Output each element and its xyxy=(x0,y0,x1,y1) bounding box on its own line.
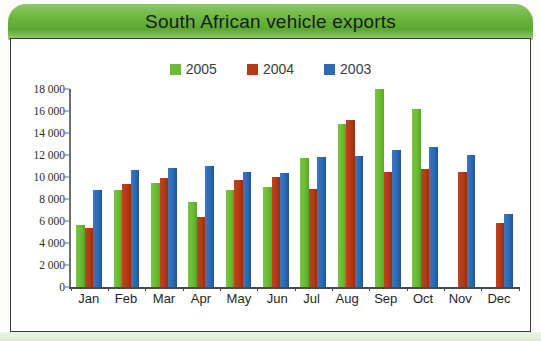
bar-cluster-Jul xyxy=(300,89,326,287)
x-tick-label-Aug: Aug xyxy=(335,291,358,306)
y-tick-label: 16 000 xyxy=(33,105,65,117)
bar-Jun-2003 xyxy=(280,173,289,287)
bar-May-2003 xyxy=(243,172,252,288)
legend-item-2005[interactable]: 2005 xyxy=(170,61,217,77)
y-tick-mark xyxy=(65,89,70,90)
bar-Oct-2003 xyxy=(429,147,438,287)
bar-Mar-2004 xyxy=(160,178,169,287)
legend-item-2004[interactable]: 2004 xyxy=(247,61,294,77)
x-tick-mark xyxy=(295,287,296,291)
bar-cluster-Jun xyxy=(263,89,289,287)
x-tick-mark xyxy=(71,287,72,291)
y-tick-mark xyxy=(65,243,70,244)
bar-Oct-2005 xyxy=(412,109,421,287)
x-tick-label-May: May xyxy=(227,291,252,306)
legend-label: 2003 xyxy=(340,61,371,77)
bar-Sep-2004 xyxy=(384,172,393,288)
bar-Jun-2005 xyxy=(263,187,272,287)
bar-Jan-2003 xyxy=(93,190,102,287)
legend-swatch-2003-icon xyxy=(324,64,335,75)
x-tick-label-Sep: Sep xyxy=(374,291,397,306)
bar-Feb-2004 xyxy=(122,184,131,287)
bar-Mar-2005 xyxy=(151,183,160,288)
x-tick-label-Oct: Oct xyxy=(413,291,433,306)
x-axis: JanFebMarAprMayJunJulAugSepOctNovDec xyxy=(71,291,519,306)
y-tick-label: 6 000 xyxy=(39,215,65,227)
x-tick-label-Feb: Feb xyxy=(115,291,137,306)
x-tick-label-Jan: Jan xyxy=(78,291,99,306)
bar-Dec-2004 xyxy=(496,223,505,287)
x-tick-mark xyxy=(332,287,333,291)
bar-Jul-2004 xyxy=(309,189,318,287)
bar-Feb-2003 xyxy=(131,170,140,287)
chart-page: South African vehicle exports 2005200420… xyxy=(0,0,541,341)
bar-cluster-Dec xyxy=(487,89,513,287)
bar-Aug-2003 xyxy=(355,156,364,287)
bar-Mar-2003 xyxy=(168,168,177,287)
bar-Sep-2003 xyxy=(392,150,401,288)
bar-cluster-Oct xyxy=(412,89,438,287)
x-tick-mark xyxy=(481,287,482,291)
x-tick-label-Jul: Jul xyxy=(303,291,320,306)
bar-Jul-2003 xyxy=(317,157,326,287)
bar-cluster-Apr xyxy=(188,89,214,287)
x-tick-mark xyxy=(108,287,109,291)
y-tick-mark xyxy=(65,287,70,288)
bar-cluster-Mar xyxy=(151,89,177,287)
bar-cluster-Sep xyxy=(375,89,401,287)
bar-cluster-Feb xyxy=(114,89,140,287)
bars-container xyxy=(71,89,519,287)
bar-Feb-2005 xyxy=(114,190,123,287)
caption-strip xyxy=(0,332,541,341)
y-tick-mark xyxy=(65,265,70,266)
y-tick-label: 10 000 xyxy=(33,171,65,183)
x-tick-mark xyxy=(444,287,445,291)
y-tick-label: 14 000 xyxy=(33,127,65,139)
bar-Apr-2005 xyxy=(188,202,197,287)
x-tick-label-Nov: Nov xyxy=(449,291,472,306)
x-tick-mark xyxy=(183,287,184,291)
bar-Sep-2005 xyxy=(375,89,384,287)
bar-Oct-2004 xyxy=(421,169,430,287)
y-tick-mark xyxy=(65,177,70,178)
bar-Aug-2004 xyxy=(346,120,355,287)
bar-Nov-2003 xyxy=(467,155,476,287)
y-tick-mark xyxy=(65,199,70,200)
bar-cluster-Aug xyxy=(338,89,364,287)
bar-Jan-2005 xyxy=(76,225,85,287)
x-tick-label-Jun: Jun xyxy=(267,291,288,306)
legend-item-2003[interactable]: 2003 xyxy=(324,61,371,77)
y-tick-mark xyxy=(65,221,70,222)
x-tick-mark xyxy=(407,287,408,291)
bar-Jan-2004 xyxy=(85,228,94,287)
legend-label: 2005 xyxy=(186,61,217,77)
chart-legend: 200520042003 xyxy=(11,61,530,77)
bar-Jul-2005 xyxy=(300,158,309,287)
y-tick-label: 12 000 xyxy=(33,149,65,161)
bar-Dec-2003 xyxy=(504,214,513,287)
bar-Aug-2005 xyxy=(338,124,347,287)
y-tick-mark xyxy=(65,155,70,156)
y-tick-mark xyxy=(65,111,70,112)
y-tick-label: 4 000 xyxy=(39,237,65,249)
bar-cluster-Jan xyxy=(76,89,102,287)
x-tick-mark xyxy=(220,287,221,291)
x-tick-label-Mar: Mar xyxy=(153,291,175,306)
bar-Apr-2004 xyxy=(197,217,206,287)
x-tick-label-Dec: Dec xyxy=(487,291,510,306)
x-tick-mark xyxy=(369,287,370,291)
bar-Apr-2003 xyxy=(205,166,214,287)
bar-cluster-May xyxy=(226,89,252,287)
bar-Jun-2004 xyxy=(272,177,281,287)
chart-frame: 200520042003 18 00016 00014 00012 00010 … xyxy=(10,38,531,332)
legend-swatch-2005-icon xyxy=(170,64,181,75)
bar-May-2005 xyxy=(226,190,235,287)
y-axis: 18 00016 00014 00012 00010 0008 0006 000… xyxy=(11,89,69,287)
x-tick-mark xyxy=(145,287,146,291)
y-tick-mark xyxy=(65,133,70,134)
chart-title-banner: South African vehicle exports xyxy=(8,4,533,40)
y-tick-label: 18 000 xyxy=(33,83,65,95)
y-tick-label: 8 000 xyxy=(39,193,65,205)
page-title: South African vehicle exports xyxy=(145,11,396,33)
legend-swatch-2004-icon xyxy=(247,64,258,75)
